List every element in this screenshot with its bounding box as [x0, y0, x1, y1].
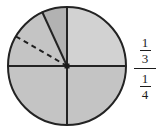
compound-fraction-bar [134, 68, 156, 69]
compound-fraction-label: 1 3 1 4 [132, 36, 158, 101]
upper-fraction-denominator: 3 [140, 52, 151, 65]
upper-fraction-numerator: 1 [140, 36, 151, 49]
circle-fraction-figure: 1 3 1 4 [0, 0, 160, 132]
upper-fraction: 1 3 [140, 36, 151, 65]
lower-fraction: 1 4 [140, 72, 151, 101]
lower-fraction-numerator: 1 [140, 72, 151, 85]
center-dot [65, 64, 70, 69]
lower-fraction-denominator: 4 [140, 88, 151, 101]
